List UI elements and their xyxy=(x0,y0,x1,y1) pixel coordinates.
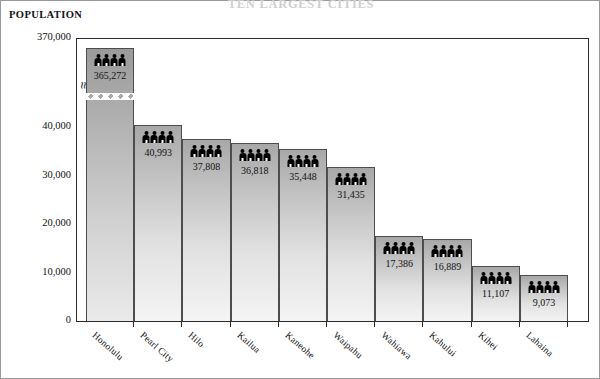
y-tick-20000: 20,000 xyxy=(5,217,71,228)
people-icon xyxy=(480,272,511,284)
bar-kaneohe: 35,448 xyxy=(279,149,327,321)
x-tick xyxy=(519,322,520,327)
y-tick-10000: 10,000 xyxy=(5,266,71,277)
bar-value-kahului: 16,889 xyxy=(434,261,462,272)
people-icon xyxy=(528,281,559,293)
people-icon xyxy=(143,131,174,143)
bar-pearl-city: 40,993 xyxy=(134,125,182,321)
people-icon xyxy=(191,145,222,157)
x-label-waipahu: Waipahu xyxy=(331,330,364,360)
bar-value-kihei: 11,107 xyxy=(482,288,509,299)
x-tick xyxy=(133,322,134,327)
x-tick xyxy=(374,322,375,327)
x-label-honolulu: Honolulu xyxy=(90,330,125,362)
chart-title: TEN LARGEST CITIES xyxy=(1,0,600,12)
bar-lahaina: 9,073 xyxy=(520,275,568,321)
bar-waipahu: 31,435 xyxy=(327,167,375,321)
x-label-lahaina: Lahaina xyxy=(524,330,555,359)
people-icon xyxy=(287,155,318,167)
plot-area: 365,27240,99337,80836,81835,44831,43517,… xyxy=(76,38,589,322)
bar-value-waipahu: 31,435 xyxy=(337,189,365,200)
bar-value-kaneohe: 35,448 xyxy=(289,171,317,182)
x-label-kaneohe: Kaneohe xyxy=(283,330,316,361)
bar-kahului: 16,889 xyxy=(423,239,471,321)
y-axis-title: POPULATION xyxy=(9,9,82,20)
y-tick-0: 0 xyxy=(5,314,71,325)
bar-hilo: 37,808 xyxy=(182,139,230,321)
bar-value-honolulu: 365,272 xyxy=(94,70,127,81)
x-tick xyxy=(422,322,423,327)
x-tick xyxy=(278,322,279,327)
bar-kailua: 36,818 xyxy=(231,143,279,321)
people-icon xyxy=(336,173,367,185)
x-label-pearl-city: Pearl City xyxy=(139,330,176,364)
x-label-hilo: Hilo xyxy=(187,330,207,349)
x-tick xyxy=(230,322,231,327)
bar-honolulu: 365,272 xyxy=(86,48,134,321)
x-label-wahiawa: Wahiawa xyxy=(380,330,414,362)
y-tick-40000: 40,000 xyxy=(5,120,71,131)
x-label-kahului: Kahului xyxy=(428,330,459,359)
bar-value-wahiawa: 17,386 xyxy=(386,258,414,269)
axis-break-zigzag xyxy=(86,93,134,107)
bar-value-pearl-city: 40,993 xyxy=(145,147,173,158)
x-tick xyxy=(326,322,327,327)
people-icon xyxy=(239,149,270,161)
y-axis-break-marker: ≈ xyxy=(79,81,87,88)
bar-kihei: 11,107 xyxy=(472,266,520,321)
chart-figure: TEN LARGEST CITIES POPULATION TOTAL POPU… xyxy=(0,0,600,379)
bar-value-kailua: 36,818 xyxy=(241,165,269,176)
y-tick-370000: 370,000 xyxy=(5,31,71,42)
x-label-kihei: Kihei xyxy=(476,330,499,352)
people-icon xyxy=(95,54,126,66)
x-label-kailua: Kailua xyxy=(235,330,262,355)
bar-value-lahaina: 9,073 xyxy=(533,297,556,308)
x-tick xyxy=(567,322,568,327)
people-icon xyxy=(432,245,463,257)
bar-wahiawa: 17,386 xyxy=(375,236,423,321)
bar-value-hilo: 37,808 xyxy=(193,161,221,172)
x-tick xyxy=(181,322,182,327)
people-icon xyxy=(384,242,415,254)
x-tick xyxy=(471,322,472,327)
y-tick-30000: 30,000 xyxy=(5,169,71,180)
